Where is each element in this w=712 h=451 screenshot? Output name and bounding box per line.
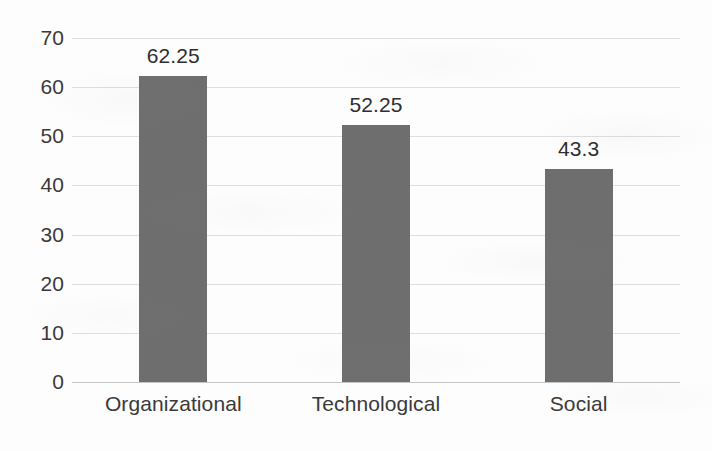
bar-group: 43.3 (477, 38, 680, 382)
bar (342, 125, 410, 382)
bar-group: 62.25 (72, 38, 275, 382)
x-axis: OrganizationalTechnologicalSocial (72, 392, 680, 426)
bar-value-label: 52.25 (349, 93, 402, 117)
y-axis-tick-label: 50 (18, 124, 64, 148)
y-axis-tick-label: 40 (18, 173, 64, 197)
plot-area: 62.2552.2543.3 (72, 38, 680, 382)
bar (139, 76, 207, 382)
x-axis-tick-label: Technological (312, 392, 441, 416)
x-axis-tick-label: Social (550, 392, 608, 416)
bar-value-label: 62.25 (147, 44, 200, 68)
x-axis-tick-label: Organizational (105, 392, 242, 416)
y-axis-tick-label: 60 (18, 75, 64, 99)
y-axis-tick-label: 0 (18, 370, 64, 394)
y-axis-tick-label: 20 (18, 272, 64, 296)
bar (545, 169, 613, 382)
bar-value-label: 43.3 (558, 137, 599, 161)
y-axis-tick-label: 10 (18, 321, 64, 345)
bar-group: 52.25 (275, 38, 478, 382)
x-axis-line (72, 382, 680, 383)
bar-chart-figure: 010203040506070 62.2552.2543.3 Organizat… (0, 0, 712, 451)
y-axis-tick-label: 70 (18, 26, 64, 50)
y-axis: 010203040506070 (12, 38, 64, 382)
y-axis-tick-label: 30 (18, 223, 64, 247)
